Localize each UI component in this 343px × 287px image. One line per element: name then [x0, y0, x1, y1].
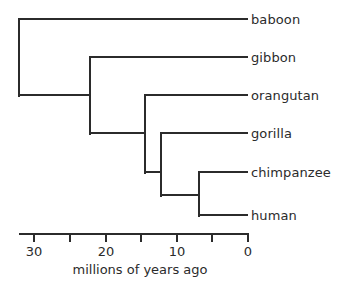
axis-tick-label-30: 30: [26, 245, 43, 258]
axis-tick-label-0: 0: [244, 245, 252, 258]
axis-tick-label-10: 10: [169, 245, 186, 258]
taxon-label-human: human: [251, 209, 297, 222]
taxon-label-gibbon: gibbon: [251, 51, 296, 64]
taxon-label-baboon: baboon: [251, 13, 300, 26]
time-axis: [20, 234, 248, 241]
tree-branches: [19, 19, 247, 216]
cladogram-figure: baboon gibbon orangutan gorilla chimpanz…: [0, 0, 343, 287]
axis-title: millions of years ago: [73, 263, 208, 276]
taxon-label-orangutan: orangutan: [251, 89, 319, 102]
taxon-label-chimpanzee: chimpanzee: [251, 166, 331, 179]
axis-tick-label-20: 20: [98, 245, 115, 258]
taxon-label-gorilla: gorilla: [251, 127, 292, 140]
